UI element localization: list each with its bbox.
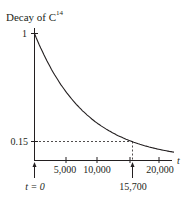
- x-tick-label-5000: 5,000: [54, 164, 77, 175]
- chart-title-superscript: 14: [56, 9, 63, 17]
- t-zero-label: t = 0: [25, 181, 45, 192]
- chart-container: Decay of C14 1 0.15 5,000 10,000 20,000 …: [0, 0, 191, 200]
- chart-svg: 1 0.15 5,000 10,000 20,000 t t = 0 15,70…: [0, 0, 191, 200]
- arrow-up-icon: [131, 162, 135, 167]
- x-tick-label-20000: 20,000: [146, 164, 174, 175]
- x-tick-label-10000: 10,000: [83, 164, 111, 175]
- x-axis-label: t: [177, 155, 180, 166]
- t-15700-label: 15,700: [119, 181, 147, 192]
- y-tick-label-1: 1: [22, 28, 27, 39]
- chart-title-text: Decay of C: [6, 11, 56, 23]
- decay-curve: [35, 34, 175, 153]
- chart-title: Decay of C14: [6, 10, 63, 23]
- y-tick-label-015: 0.15: [11, 136, 29, 147]
- arrow-up-icon: [33, 162, 37, 167]
